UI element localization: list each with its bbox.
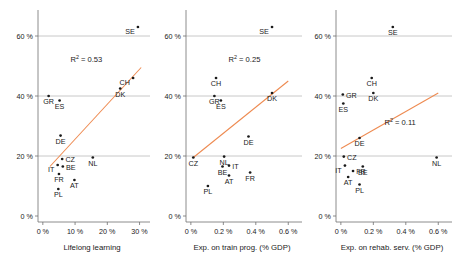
data-point-label: BE [66,163,76,172]
x-tick-label: 0.6 % [429,227,448,236]
y-tick-label: 20 % [165,152,182,161]
y-tick-label: 0 % [21,212,34,221]
data-point-label: SE [125,27,135,36]
x-tick-label: 0.2 % [214,227,233,236]
data-point-label: NL [88,159,97,168]
x-axis-title: Exp. on rehab. serv. (% GDP) [341,243,444,252]
x-tick-label: 0.2 % [364,227,383,236]
data-point [228,164,231,167]
y-tick-label: 60 % [315,32,332,41]
x-axis-title: Lifelong learning [63,243,120,252]
panel-plot-area: 0 %20 %40 %60 %0 %0.2 %0.4 %0.6 %SECHDKG… [152,0,302,260]
scatter-panel-2: 0 %20 %40 %60 %0 %0.2 %0.4 %0.6 %SECHDKG… [152,0,302,260]
y-tick-label: 60 % [17,32,34,41]
r-squared-annotation: R2 = 0.53 [70,54,102,64]
y-tick-label: 40 % [315,92,332,101]
x-tick-label: 10 % [67,227,84,236]
x-tick-label: 0.4 % [397,227,416,236]
x-axis-title: Exp. on train prog. (% GDP) [193,243,290,252]
data-point [61,165,64,168]
data-point-label: PL [54,190,63,199]
data-point [132,77,135,80]
data-point-label: CZ [189,159,199,168]
data-point-label: NL [220,158,229,167]
data-point-label: IT [48,165,55,174]
r-squared-value: = 0.53 [79,55,102,64]
x-tick-label: 20 % [99,227,116,236]
y-tick-label: 0 % [169,212,182,221]
x-tick-label: 0.6 % [279,227,298,236]
data-point-label: ES [55,102,65,111]
y-tick-label: 0 % [319,212,332,221]
data-point [342,155,345,158]
data-point [352,170,355,173]
data-point [344,164,347,167]
y-tick-label: 40 % [165,92,182,101]
x-tick-label: 0.4 % [247,227,266,236]
r-squared-annotation: R2 = 0.11 [384,117,415,127]
data-point-label: ES [216,102,226,111]
data-point-label: GR [43,97,54,106]
data-point-label: DE [56,137,66,146]
r-squared-value: = 0.11 [393,118,416,127]
data-point-label: ES [339,105,349,114]
data-point-label: DE [243,138,253,147]
x-tick-label: 0 % [37,227,50,236]
data-point-label: FR [356,167,366,176]
panel-plot-area: 0 %20 %40 %60 %0 %10 %20 %30 %SECHDKGRES… [0,0,152,260]
x-tick-label: 0 % [335,227,348,236]
scatter-panel-1: 0 %20 %40 %60 %0 %10 %20 %30 %SECHDKGRES… [0,0,152,260]
data-point-label: DK [267,94,277,103]
data-point-label: IT [335,166,342,175]
data-point-label: DE [355,139,365,148]
data-point-label: BE [218,168,228,177]
y-tick-label: 60 % [165,32,182,41]
data-point-label: FR [245,174,255,183]
data-point-label: CH [211,79,221,88]
data-point-label: SE [259,27,269,36]
data-point-label: CH [367,79,377,88]
regression-line [193,81,288,158]
data-point-label: IT [232,162,239,171]
data-point-label: AT [344,178,353,187]
data-point-label: DK [368,94,378,103]
data-point [271,26,274,29]
x-tick-label: 0 % [185,227,198,236]
data-point-label: CZ [347,153,357,162]
y-tick-label: 20 % [315,152,332,161]
data-point [341,93,344,96]
data-point-label: CH [120,78,130,87]
data-point [137,26,140,29]
data-point-label: DK [115,90,125,99]
y-tick-label: 40 % [17,92,34,101]
panel-plot-area: 0 %20 %40 %60 %0 %0.2 %0.4 %0.6 %SECHDKG… [302,0,452,260]
data-point-label: PL [355,186,364,195]
data-point-label: AT [225,177,234,186]
r-squared-annotation: R2 = 0.25 [228,54,260,64]
x-tick-label: 30 % [131,227,148,236]
r-squared-value: = 0.25 [237,55,260,64]
data-point-label: SE [388,28,398,37]
y-tick-label: 20 % [17,152,34,161]
data-point [61,158,64,161]
data-point-label: PL [204,187,213,196]
data-point-label: FR [54,175,64,184]
data-point [56,164,59,167]
data-point-label: GR [346,91,357,100]
data-point-label: NL [432,159,441,168]
scatter-panel-3: 0 %20 %40 %60 %0 %0.2 %0.4 %0.6 %SECHDKG… [302,0,452,260]
three-panel-scatter-figure: 0 %20 %40 %60 %0 %10 %20 %30 %SECHDKGRES… [0,0,452,260]
data-point-label: AT [70,181,79,190]
